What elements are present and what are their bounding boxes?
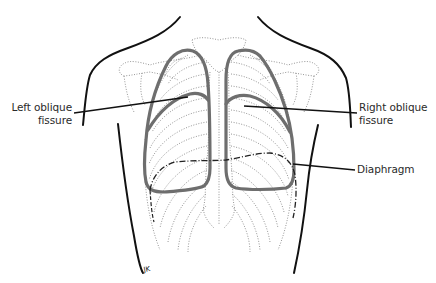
right-flank-outline	[294, 125, 318, 273]
label-diaphragm: Diaphragm	[357, 163, 433, 176]
right-fissure-leader	[244, 106, 357, 113]
right-clavicle	[238, 55, 319, 80]
label-right-oblique-fissure-line1: Right oblique	[359, 101, 435, 114]
label-left-oblique-fissure-line2: fissure	[4, 114, 72, 127]
body-outline	[83, 17, 351, 273]
lungs	[145, 50, 295, 192]
label-right-oblique-fissure: Right oblique fissure	[359, 101, 435, 127]
left-flank-outline	[118, 124, 143, 273]
leader-lines	[74, 97, 357, 170]
label-right-oblique-fissure-line2: fissure	[359, 114, 435, 127]
label-left-oblique-fissure: Left oblique fissure	[4, 101, 72, 127]
signature-mark: JK	[142, 265, 151, 274]
diaphragm-line	[150, 153, 296, 218]
diaphragm-leader	[293, 164, 355, 170]
chest-diagram: JK	[0, 0, 436, 283]
right-oblique-fissure-line	[226, 95, 290, 132]
skeleton-dotted	[119, 38, 319, 250]
label-diaphragm-text: Diaphragm	[357, 163, 433, 176]
label-left-oblique-fissure-line1: Left oblique	[4, 101, 72, 114]
